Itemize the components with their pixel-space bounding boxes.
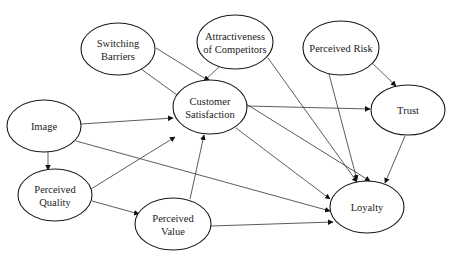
arrow-icon — [211, 222, 333, 226]
path-diagram: SwitchingBarriersAttractivenessof Compet… — [0, 0, 461, 262]
node-label: Trust — [397, 105, 419, 116]
ellipse-shape — [81, 23, 155, 75]
node-perceived-value: PerceivedValue — [135, 198, 211, 250]
ellipse-shape — [135, 198, 211, 250]
arrow-icon — [91, 137, 175, 189]
edge-trust-to-loyalty — [385, 136, 405, 183]
edge-perceived-quality-to-perceived-value — [92, 201, 139, 214]
node-label: Perceived Risk — [309, 43, 373, 54]
ellipse-shape — [197, 15, 273, 69]
node-loyalty: Loyalty — [330, 181, 404, 233]
edge-perceived-quality-to-customer-satisfaction — [91, 137, 175, 189]
arrow-icon — [268, 58, 357, 182]
nodes-layer: SwitchingBarriersAttractivenessof Compet… — [7, 15, 445, 250]
node-label: Perceived — [152, 213, 194, 224]
node-label: of Competitors — [203, 44, 266, 55]
node-image: Image — [7, 100, 81, 152]
ellipse-shape — [173, 80, 247, 134]
edge-attractiveness-to-customer-satisfaction — [204, 66, 220, 81]
arrow-icon — [385, 136, 405, 183]
node-label: Quality — [39, 197, 71, 208]
node-trust: Trust — [371, 85, 445, 135]
edge-image-to-loyalty — [76, 141, 330, 211]
node-label: Value — [161, 226, 185, 237]
arrow-icon — [92, 201, 139, 214]
node-label: Customer — [190, 96, 231, 107]
node-label: Barriers — [101, 51, 135, 62]
node-label: Image — [31, 121, 58, 132]
node-label: Perceived — [34, 184, 76, 195]
node-switching-barriers: SwitchingBarriers — [81, 23, 155, 75]
arrow-icon — [247, 106, 370, 109]
node-label: Attractiveness — [205, 31, 265, 42]
node-label: Switching — [97, 38, 140, 49]
arrow-icon — [204, 66, 220, 81]
arrow-icon — [190, 135, 204, 199]
node-label: Loyalty — [351, 202, 384, 213]
node-attractiveness: Attractivenessof Competitors — [197, 15, 273, 69]
edge-perceived-value-to-customer-satisfaction — [190, 135, 204, 199]
edge-image-to-customer-satisfaction — [81, 118, 173, 124]
node-customer-satisfaction: CustomerSatisfaction — [173, 80, 247, 134]
ellipse-shape — [18, 169, 92, 221]
node-perceived-quality: PerceivedQuality — [18, 169, 92, 221]
edge-customer-satisfaction-to-loyalty — [236, 128, 330, 199]
edge-customer-satisfaction-to-trust — [247, 106, 370, 109]
edge-perceived-value-to-loyalty — [211, 222, 333, 226]
node-perceived-risk: Perceived Risk — [303, 21, 379, 75]
edge-attractiveness-to-loyalty — [268, 58, 357, 182]
arrow-icon — [236, 128, 330, 199]
arrow-icon — [76, 141, 330, 211]
arrow-icon — [81, 118, 173, 124]
node-label: Satisfaction — [185, 109, 235, 120]
